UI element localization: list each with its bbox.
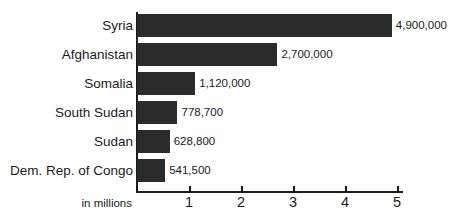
bar-category-label: Somalia xyxy=(84,72,133,95)
bar-sudan xyxy=(137,130,170,153)
bar-south-sudan xyxy=(137,101,177,124)
axis-caption: in millions xyxy=(40,196,132,210)
axis-tick-label: 3 xyxy=(281,194,305,211)
bar-row: Syria 4,900,000 xyxy=(0,14,461,37)
axis-tick xyxy=(345,186,347,192)
bar-category-label: Syria xyxy=(102,14,133,37)
axis-tick-label: 2 xyxy=(229,194,253,211)
bar-row: Dem. Rep. of Congo 541,500 xyxy=(0,159,461,182)
bar-row: Afghanistan 2,700,000 xyxy=(0,43,461,66)
axis-tick-label: 4 xyxy=(333,194,357,211)
value-axis-line xyxy=(136,191,403,193)
bar-value-label: 778,700 xyxy=(181,101,223,124)
bar-row: Somalia 1,120,000 xyxy=(0,72,461,95)
bar-category-label: Sudan xyxy=(94,130,133,153)
axis-tick-label: 1 xyxy=(177,194,201,211)
bar-afghanistan xyxy=(137,43,277,66)
axis-tick xyxy=(397,186,399,192)
bar-somalia xyxy=(137,72,195,95)
bar-value-label: 4,900,000 xyxy=(396,14,447,37)
bar-value-label: 1,120,000 xyxy=(199,72,250,95)
bar-dem-rep-of-congo xyxy=(137,159,165,182)
bar-category-label: Dem. Rep. of Congo xyxy=(10,159,133,182)
bar-value-label: 2,700,000 xyxy=(281,43,332,66)
axis-tick xyxy=(241,186,243,192)
bar-chart: Syria 4,900,000 Afghanistan 2,700,000 So… xyxy=(0,0,461,221)
bar-row: Sudan 628,800 xyxy=(0,130,461,153)
bar-value-label: 541,500 xyxy=(169,159,211,182)
axis-tick xyxy=(189,186,191,192)
bar-category-label: Afghanistan xyxy=(62,43,133,66)
bar-row: South Sudan 778,700 xyxy=(0,101,461,124)
axis-tick-label: 5 xyxy=(385,194,409,211)
bar-value-label: 628,800 xyxy=(174,130,216,153)
bar-syria xyxy=(137,14,392,37)
axis-tick xyxy=(293,186,295,192)
bar-category-label: South Sudan xyxy=(55,101,133,124)
